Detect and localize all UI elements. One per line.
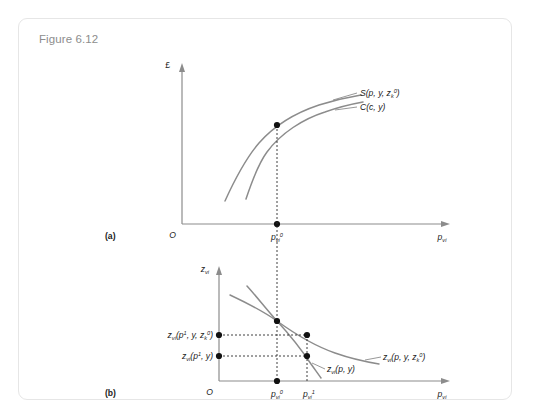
- panel-b-short-run-point: [304, 332, 310, 338]
- panel-b-y-axis-label: zvi: [200, 264, 210, 275]
- panel-b-x-tick-point-p0: [274, 378, 280, 384]
- panel-b-y-tick-label-long-run: zvi(p1, y): [181, 351, 213, 362]
- panel-b-short-run-label-tail: ): [421, 352, 425, 362]
- panel-a-y-axis-label: £: [165, 60, 170, 70]
- figure-plot-area: £ S(p, y, zk0) C(c, y) O (a) pvi0 pvi: [19, 19, 513, 401]
- panel-a-supply-curve-label-base: S(p, y, z: [360, 88, 392, 98]
- panel-b-y-axis-label-sub: vi: [205, 269, 210, 275]
- panel-b-y-tick-1-tail: ): [209, 330, 213, 340]
- panel-b-long-run-label-mid: (p, y): [335, 364, 355, 374]
- panel-b-origin-label: O: [206, 387, 213, 397]
- panel-b-x-tick-label-p1: pvi1: [302, 389, 315, 400]
- panel-a-x-axis-arrowhead: [441, 221, 450, 227]
- panel-b-y-tick-point-short-run: [216, 332, 222, 338]
- panel-a-supply-profit-curve: [225, 95, 361, 201]
- panel-b-y-tick-1-mid2: , y, z: [187, 330, 205, 340]
- panel-b-intersection-point: [274, 318, 280, 324]
- panel-b-y-tick-label-short-run: zvi(p1, y, zk0): [167, 330, 214, 341]
- panel-b: zvi zvi(p1, y, zk0) zvi(p1, y) zvi(p, y,…: [105, 222, 450, 400]
- panel-b-short-run-label-leader: [365, 357, 381, 360]
- panel-b-label: (b): [105, 388, 116, 398]
- panel-a-x-axis-label-sub: vi: [442, 237, 447, 243]
- panel-a-tangency-point: [274, 122, 280, 128]
- panel-b-short-run-label-mid: (p, y, z: [391, 352, 417, 362]
- panel-b-x-axis-arrowhead: [441, 378, 450, 384]
- panel-b-x-axis-label: pvi: [437, 389, 448, 400]
- panel-b-x-tick-label-p0: pvi0: [270, 389, 284, 400]
- panel-a-cost-curve: [246, 102, 363, 199]
- panel-b-x-tick-p0-sup: 0: [280, 389, 284, 395]
- panel-a-origin-label: O: [169, 230, 176, 240]
- panel-a-supply-curve-label-tail: ): [396, 88, 400, 98]
- panel-b-x-axis-label-sub: vi: [442, 394, 447, 400]
- panel-a-label: (a): [105, 231, 116, 241]
- panel-a-supply-curve-label: S(p, y, zk0): [360, 88, 400, 99]
- panel-b-long-run-point: [304, 353, 310, 359]
- panel-a: £ S(p, y, zk0) C(c, y) O (a) pvi0 pvi: [105, 60, 450, 243]
- panel-b-long-run-curve-label: zvi(p, y): [326, 364, 355, 375]
- panel-b-y-axis-arrowhead: [216, 266, 222, 275]
- panel-b-x-tick-p1-sup: 1: [312, 389, 315, 395]
- panel-b-y-tick-point-long-run: [216, 353, 222, 359]
- panel-a-y-axis-arrowhead: [179, 63, 185, 72]
- panel-a-x-tick-sup: 0: [280, 232, 284, 238]
- panel-b-short-run-curve-label: zvi(p, y, zk0): [382, 352, 425, 363]
- panel-b-long-run-demand-curve: [247, 286, 321, 378]
- panel-b-y-tick-2-tail: ): [209, 351, 213, 361]
- panel-a-cost-curve-label: C(c, y): [360, 102, 385, 112]
- panel-a-x-tick-label: pvi0: [270, 232, 284, 243]
- figure-card: Figure 6.12: [18, 18, 512, 400]
- panel-a-x-axis-label: pvi: [437, 232, 448, 243]
